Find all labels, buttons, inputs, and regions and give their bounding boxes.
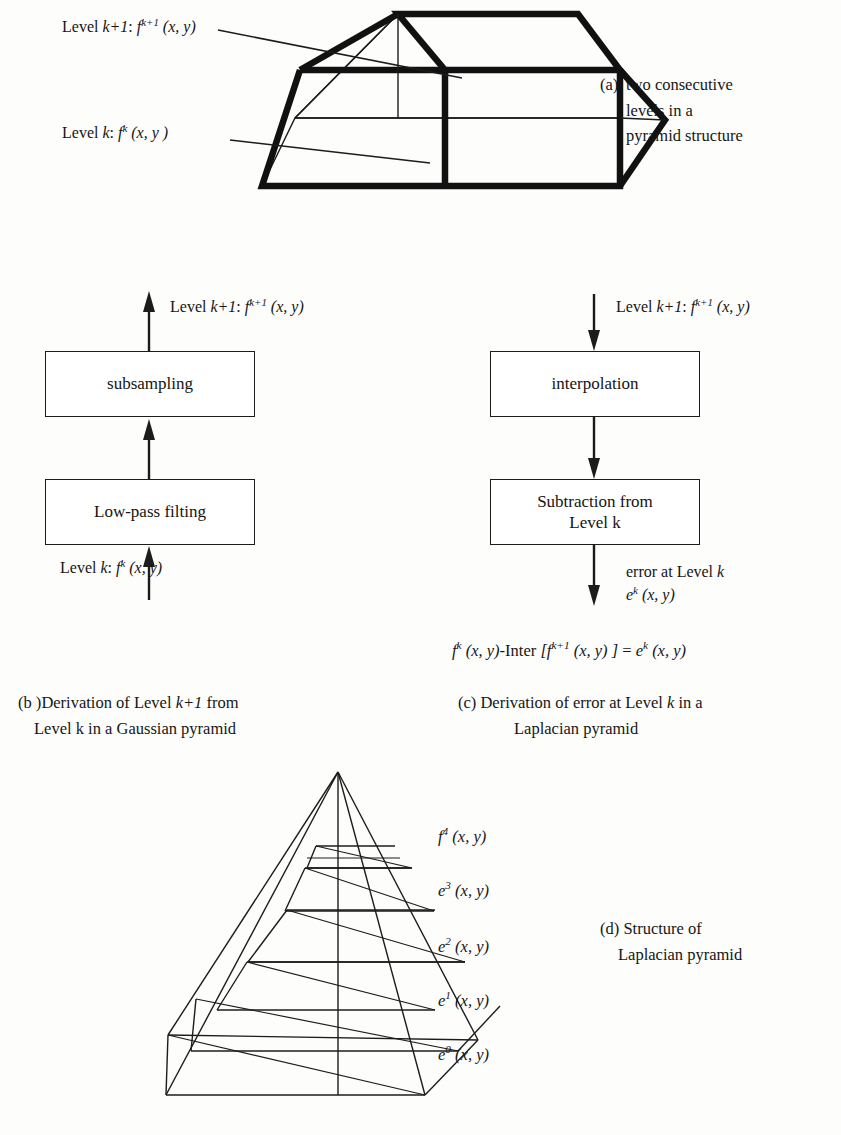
eq-term3-sup: k+1 — [551, 639, 569, 651]
error-line-2: ek (x, y) — [626, 583, 724, 607]
box-subtraction-label: Subtraction from Level k — [491, 480, 699, 544]
arguments: (x, y) — [451, 991, 489, 1010]
caption-line-1: Derivation of Level — [41, 693, 175, 712]
box-subtraction-line-1: Subtraction from — [537, 491, 653, 512]
caption-tag: (d) — [600, 919, 619, 938]
eq-equals: = — [618, 641, 636, 660]
colon: : — [682, 298, 690, 315]
arguments: (x, y) — [451, 881, 489, 900]
panel-b-caption: (b )Derivation of Level k+1 from Level k… — [18, 690, 348, 741]
box-subtraction[interactable]: Subtraction from Level k — [490, 479, 700, 545]
eq-term5-args: (x, y) — [648, 641, 686, 660]
arrow-head-output — [588, 585, 600, 606]
caption-line-1: Derivation of error at Level — [480, 693, 666, 712]
error-level-index: k — [717, 563, 724, 580]
caption-line-1: Structure of — [623, 919, 701, 938]
pyramid-level-label-e0: e0 (x, y) — [438, 1042, 489, 1065]
pyramid-level-label-e1: e1 (x, y) — [438, 988, 489, 1011]
caption-tag: (c) — [458, 693, 476, 712]
arguments: (x, y) — [451, 1045, 489, 1064]
arguments: (x, y) — [713, 298, 750, 315]
superscript: k+1 — [695, 296, 713, 308]
caption-tag: (b ) — [18, 693, 41, 712]
caption-line-1-italic: k+1 — [176, 693, 203, 712]
panel-c-input-label: Level k+1: fk+1 (x, y) — [616, 296, 750, 318]
error-text: error at Level — [626, 563, 717, 580]
arrow-head-middle — [588, 458, 600, 479]
arrow-head-input — [588, 330, 600, 351]
panel-c-caption: (c) Derivation of error at Level k in a … — [458, 690, 798, 741]
caption-line-1-end: in a — [674, 693, 702, 712]
eq-term3-args: (x, y) — [570, 641, 612, 660]
eq-operator-inter: -Inter — [500, 641, 541, 660]
caption-line-2: Laplacian pyramid — [458, 716, 798, 742]
pyramid-level-label-e3: e3 (x, y) — [438, 878, 489, 901]
arguments: (x, y) — [638, 587, 675, 604]
arguments: (x, y) — [451, 937, 489, 956]
box-interpolation-label: interpolation — [491, 352, 699, 416]
caption-line-2: Laplacian pyramid — [600, 942, 820, 968]
panel-c-error-label: error at Level k ek (x, y) — [626, 560, 724, 607]
caption-line-1-end: from — [202, 693, 238, 712]
eq-term1-args: (x, y) — [462, 641, 500, 660]
pyramid-level-label-e2: e2 (x, y) — [438, 934, 489, 957]
level-index: k+1 — [656, 298, 682, 315]
panel-c-equation: fk (x, y)-Inter [fk+1 (x, y) ] = ek (x, … — [452, 638, 686, 661]
pyramid-level-label-f4: f4 (x, y) — [438, 824, 486, 847]
box-subtraction-line-2: Level k — [569, 512, 620, 533]
arguments: (x, y) — [448, 827, 486, 846]
box-interpolation[interactable]: interpolation — [490, 351, 700, 417]
caption-line-2: Level k in a Gaussian pyramid — [18, 716, 348, 742]
eq-term5-fn: e — [636, 641, 643, 660]
level-word: Level — [616, 298, 656, 315]
panel-d-caption: (d) Structure of Laplacian pyramid — [600, 916, 820, 967]
error-line-1: error at Level k — [626, 560, 724, 583]
